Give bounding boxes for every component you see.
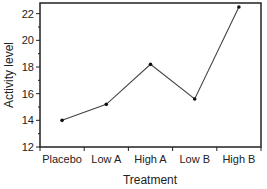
y-tick-label: 22 bbox=[22, 8, 34, 20]
data-point-marker bbox=[193, 97, 197, 101]
line-chart: 121416182022 PlaceboLow AHigh ALow BHigh… bbox=[0, 0, 267, 189]
y-tick-label: 20 bbox=[22, 34, 34, 46]
data-point-marker bbox=[237, 5, 241, 9]
data-point-marker bbox=[60, 119, 64, 123]
y-tick-label: 12 bbox=[22, 141, 34, 153]
data-point-marker bbox=[149, 63, 153, 67]
plot-frame bbox=[40, 3, 261, 147]
y-axis: 121416182022 bbox=[22, 8, 40, 153]
x-tick-label: Placebo bbox=[42, 153, 82, 165]
x-tick-label: Low A bbox=[91, 153, 122, 165]
y-axis-title: Activity level bbox=[2, 42, 16, 108]
y-tick-label: 16 bbox=[22, 88, 34, 100]
x-axis-title: Treatment bbox=[123, 173, 178, 187]
data-point-marker bbox=[105, 103, 109, 107]
y-tick-label: 18 bbox=[22, 61, 34, 73]
x-tick-label: High B bbox=[222, 153, 255, 165]
x-axis: PlaceboLow AHigh ALow BHigh B bbox=[40, 147, 261, 165]
x-tick-label: Low B bbox=[179, 153, 210, 165]
x-tick-label: High A bbox=[134, 153, 167, 165]
data-series bbox=[60, 5, 240, 122]
y-tick-label: 14 bbox=[22, 114, 34, 126]
